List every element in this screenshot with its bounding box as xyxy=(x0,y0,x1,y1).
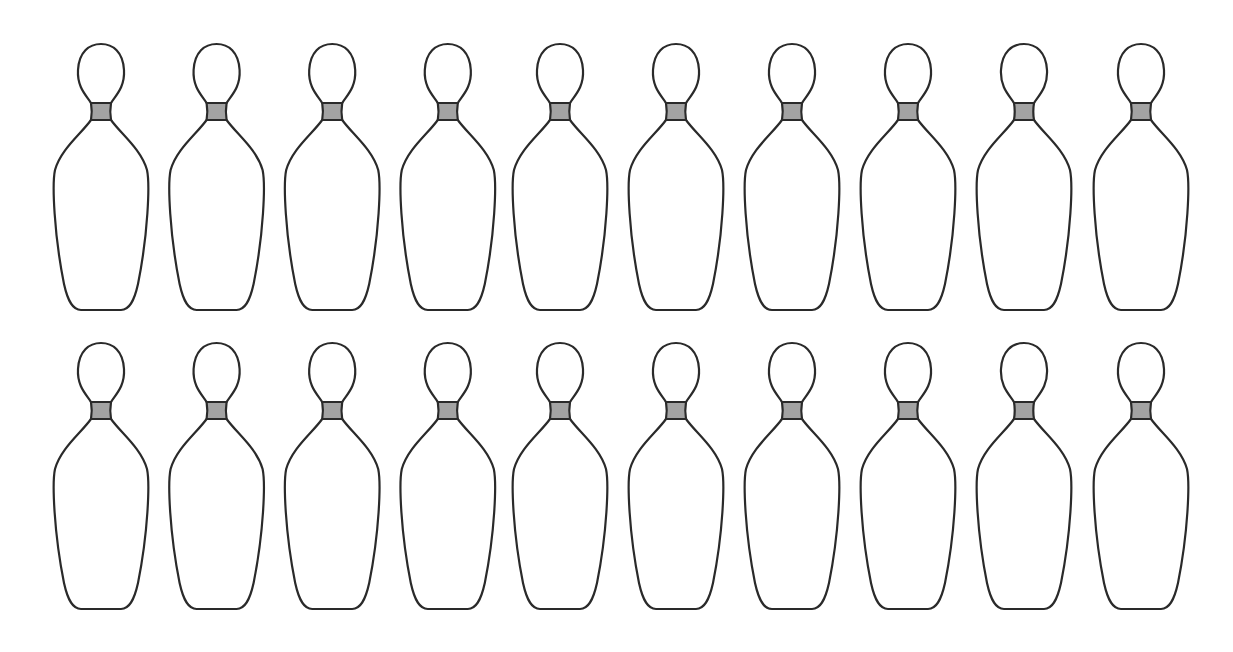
bowling-pin-icon xyxy=(513,343,608,609)
bowling-pin-icon xyxy=(169,343,264,609)
bowling-pin-icon xyxy=(861,343,956,609)
bowling-pin-icon xyxy=(629,44,724,310)
bowling-pin-icon xyxy=(1094,44,1189,310)
bowling-pin-icon xyxy=(169,44,264,310)
bowling-pin-icon xyxy=(285,343,380,609)
bowling-pin-icon xyxy=(977,343,1072,609)
pin-row-1 xyxy=(54,44,1189,310)
pin-row-2 xyxy=(54,343,1189,609)
bowling-pins-illustration xyxy=(0,0,1233,652)
bowling-pin-icon xyxy=(745,44,840,310)
bowling-pin-icon xyxy=(401,343,496,609)
bowling-pin-icon xyxy=(285,44,380,310)
bowling-pin-icon xyxy=(745,343,840,609)
bowling-pin-icon xyxy=(629,343,724,609)
bowling-pin-icon xyxy=(977,44,1072,310)
bowling-pin-icon xyxy=(54,44,149,310)
bowling-pin-icon xyxy=(54,343,149,609)
bowling-pin-icon xyxy=(401,44,496,310)
bowling-pin-icon xyxy=(861,44,956,310)
bowling-pin-icon xyxy=(1094,343,1189,609)
bowling-pin-icon xyxy=(513,44,608,310)
